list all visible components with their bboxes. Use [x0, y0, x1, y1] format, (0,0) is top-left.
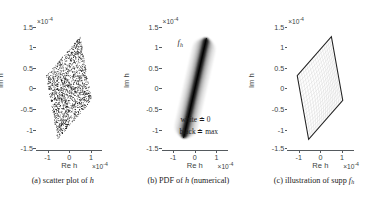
- panel-c-y-exponent: ×10-4: [288, 16, 304, 25]
- panel-c-ytick-label: 0.5: [251, 63, 284, 72]
- panel-b-ytick-label: 1: [126, 43, 159, 52]
- panel-a-ytick-label: 1.5: [0, 22, 33, 31]
- panel-c-canvas: [287, 26, 353, 150]
- panel-c-caption: (c) illustration of supp fh: [251, 176, 377, 185]
- panel-b-caption: (b) PDF of h (numerical): [126, 176, 252, 185]
- panel-b-x-exponent: ×10-4: [218, 161, 234, 170]
- panel-a-ytick-label: 0.5: [0, 63, 33, 72]
- figure-three-panel: ×10-4 1.5 1 0.5 0 -0.5 -1 -1.5 -1 0: [0, 0, 377, 199]
- panel-a-ytick-label: -1.5: [0, 143, 33, 152]
- panel-c-ylabel: Im h: [247, 73, 256, 88]
- panel-a-caption: (a) scatter plot of h: [0, 176, 126, 185]
- panel-c-ytick-label: -1: [251, 125, 284, 134]
- panel-b-density-label: fh: [178, 38, 183, 48]
- panel-a-y-exponent: ×10-4: [37, 16, 53, 25]
- panel-a-ytick-label: -1: [0, 125, 33, 134]
- panel-b-ytick-label: -1: [126, 125, 159, 134]
- panel-c-x-exponent: ×10-4: [343, 161, 359, 170]
- panel-b-annotation-black: black ≐ max: [180, 127, 218, 136]
- panel-c-ytick-label: 0: [251, 84, 284, 93]
- panel-c-ytick-label: 1: [251, 43, 284, 52]
- panel-c-ytick-label: -1.5: [251, 143, 284, 152]
- panel-b-annotation-white: white ≐ 0: [181, 115, 211, 124]
- panel-b-plot-area: ×10-4 1.5 1 0.5 0 -0.5 -1 -1.5 -1 0 1: [126, 0, 252, 172]
- panel-a-canvas: [36, 26, 102, 150]
- panel-b-ylabel: Im h: [122, 73, 131, 88]
- panel-b-y-exponent: ×10-4: [163, 16, 179, 25]
- panel-b-ytick-label: 1.5: [126, 22, 159, 31]
- panel-c-support: ×10-4 1.5 1 0.5 0 -0.5 -1 -1.5 -1 0 1: [251, 0, 377, 199]
- panel-a-ytick-label: -0.5: [0, 104, 33, 113]
- panel-a-x-exponent: ×10-4: [92, 161, 108, 170]
- panel-a-ylabel: Im h: [0, 73, 5, 88]
- panel-b-ytick-label: -0.5: [126, 104, 159, 113]
- panel-b-pdf: ×10-4 1.5 1 0.5 0 -0.5 -1 -1.5 -1 0 1: [126, 0, 252, 199]
- panel-c-ytick-label: -0.5: [251, 104, 284, 113]
- panel-a-ytick-label: 1: [0, 43, 33, 52]
- panel-a-scatter-svg: [36, 26, 102, 150]
- panel-b-ytick-label: 0.5: [126, 63, 159, 72]
- panel-c-plot-area: ×10-4 1.5 1 0.5 0 -0.5 -1 -1.5 -1 0 1: [251, 0, 377, 172]
- panel-a-scatter: ×10-4 1.5 1 0.5 0 -0.5 -1 -1.5 -1 0: [0, 0, 126, 199]
- panel-c-ytick-label: 1.5: [251, 22, 284, 31]
- panel-a-plot-area: ×10-4 1.5 1 0.5 0 -0.5 -1 -1.5 -1 0: [0, 0, 126, 172]
- panel-b-ytick-label: -1.5: [126, 143, 159, 152]
- panel-c-support-svg: [287, 26, 353, 150]
